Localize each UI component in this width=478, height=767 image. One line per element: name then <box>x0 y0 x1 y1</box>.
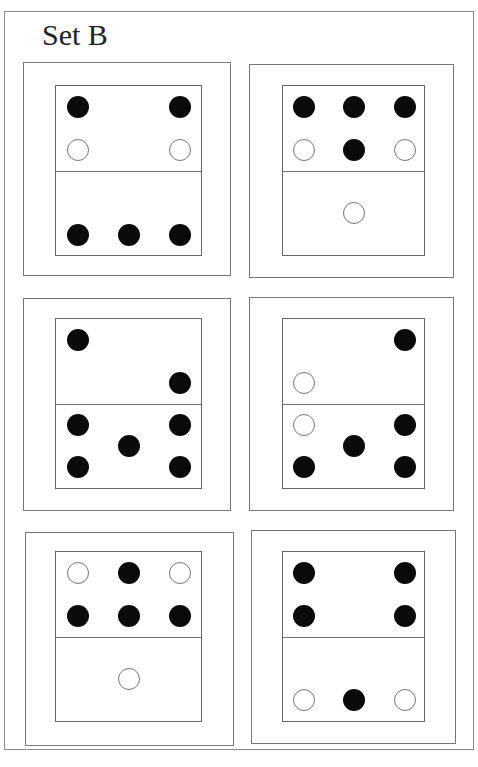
filled-pip-icon <box>67 329 89 351</box>
filled-pip-icon <box>169 456 191 478</box>
empty-pip-icon <box>169 562 191 584</box>
domino-divider <box>56 637 201 638</box>
filled-pip-icon <box>169 372 191 394</box>
empty-pip-icon <box>343 202 365 224</box>
filled-pip-icon <box>67 224 89 246</box>
set-title: Set B <box>42 20 108 50</box>
filled-pip-icon <box>169 414 191 436</box>
empty-pip-icon <box>293 689 315 711</box>
empty-pip-icon <box>293 372 315 394</box>
filled-pip-icon <box>118 435 140 457</box>
filled-pip-icon <box>394 456 416 478</box>
empty-pip-icon <box>293 139 315 161</box>
domino-divider <box>283 404 424 405</box>
filled-pip-icon <box>394 329 416 351</box>
empty-pip-icon <box>169 139 191 161</box>
filled-pip-icon <box>394 605 416 627</box>
domino-tile <box>282 318 425 489</box>
filled-pip-icon <box>67 605 89 627</box>
empty-pip-icon <box>394 689 416 711</box>
domino-tile <box>282 85 425 256</box>
filled-pip-icon <box>343 96 365 118</box>
domino-tile <box>55 318 202 489</box>
domino-tile <box>55 551 202 722</box>
filled-pip-icon <box>343 139 365 161</box>
domino-divider <box>283 637 424 638</box>
filled-pip-icon <box>394 414 416 436</box>
filled-pip-icon <box>293 605 315 627</box>
filled-pip-icon <box>67 96 89 118</box>
filled-pip-icon <box>67 414 89 436</box>
filled-pip-icon <box>394 96 416 118</box>
filled-pip-icon <box>169 224 191 246</box>
filled-pip-icon <box>394 562 416 584</box>
filled-pip-icon <box>293 562 315 584</box>
empty-pip-icon <box>118 668 140 690</box>
domino-divider <box>56 404 201 405</box>
empty-pip-icon <box>293 414 315 436</box>
domino-tile <box>282 551 425 722</box>
filled-pip-icon <box>293 456 315 478</box>
domino-divider <box>56 171 201 172</box>
filled-pip-icon <box>293 96 315 118</box>
filled-pip-icon <box>169 96 191 118</box>
filled-pip-icon <box>343 689 365 711</box>
domino-divider <box>283 171 424 172</box>
empty-pip-icon <box>67 562 89 584</box>
filled-pip-icon <box>67 456 89 478</box>
filled-pip-icon <box>118 605 140 627</box>
filled-pip-icon <box>118 562 140 584</box>
empty-pip-icon <box>394 139 416 161</box>
filled-pip-icon <box>118 224 140 246</box>
domino-tile <box>55 85 202 256</box>
empty-pip-icon <box>67 139 89 161</box>
filled-pip-icon <box>169 605 191 627</box>
filled-pip-icon <box>343 435 365 457</box>
